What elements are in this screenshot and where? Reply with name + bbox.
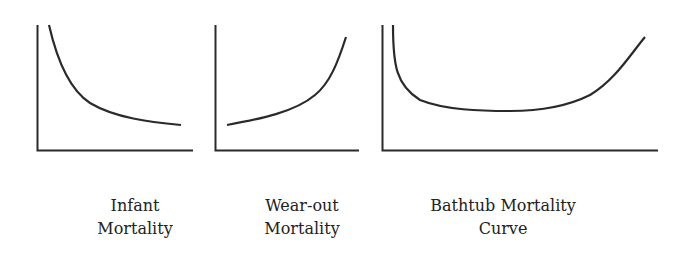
y-axis — [38, 25, 194, 151]
label-line1: Bathtub Mortality — [423, 194, 583, 217]
label-line2: Mortality — [252, 217, 352, 240]
infant-mortality-plot — [38, 25, 194, 151]
bathtub-curve — [393, 25, 645, 111]
label-line2: Curve — [423, 217, 583, 240]
label-line1: Wear-out — [252, 194, 352, 217]
wearout-mortality-curve — [227, 37, 346, 125]
infant-mortality-label: Infant Mortality — [85, 194, 185, 240]
bathtub-curve-label: Bathtub Mortality Curve — [423, 194, 583, 240]
bathtub-curve-plot — [383, 25, 659, 151]
axes — [383, 25, 659, 151]
axes — [216, 25, 360, 151]
wearout-mortality-plot — [216, 25, 360, 151]
label-line1: Infant — [85, 194, 185, 217]
wearout-mortality-label: Wear-out Mortality — [252, 194, 352, 240]
label-line2: Mortality — [85, 217, 185, 240]
infant-mortality-curve — [49, 25, 181, 125]
